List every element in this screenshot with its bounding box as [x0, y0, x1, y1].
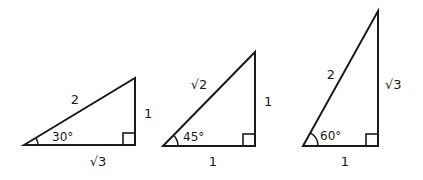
base-label: 1	[209, 154, 217, 169]
hypotenuse-label: 2	[71, 92, 79, 107]
base-label: √3	[90, 154, 107, 169]
base-label: 1	[341, 154, 349, 169]
angle-arc	[310, 133, 318, 146]
angle-label: 45°	[183, 130, 204, 144]
triangle-60	[303, 11, 378, 146]
vertical-leg-label: 1	[264, 94, 272, 109]
angle-label: 30°	[52, 130, 73, 144]
triangle-30-outline	[24, 78, 135, 145]
right-angle-marker	[366, 134, 378, 146]
hypotenuse-label: √2	[191, 77, 208, 92]
triangle-30	[24, 78, 135, 145]
triangle-45	[163, 52, 255, 146]
angle-label: 60°	[320, 129, 341, 143]
triangle-45-outline	[163, 52, 255, 146]
angle-arc	[174, 135, 179, 146]
triangle-60-outline	[303, 11, 378, 146]
vertical-leg-label: √3	[385, 77, 402, 92]
angle-arc	[36, 138, 38, 145]
right-angle-marker	[243, 134, 255, 146]
triangles-diagram: 2 1 30° √3 √2 1 45° 1 2 √3 60° 1	[0, 0, 423, 180]
right-angle-marker	[123, 133, 135, 145]
hypotenuse-label: 2	[327, 67, 335, 82]
vertical-leg-label: 1	[144, 106, 152, 121]
